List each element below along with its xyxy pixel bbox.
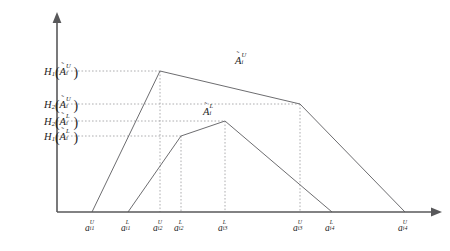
y-label-h1-lower: H1(˜ALi) (44, 129, 78, 145)
horizontal-guides (57, 71, 300, 136)
lower-membership-curve (128, 121, 332, 212)
x-label-ai1u: aUi1 (80, 221, 104, 233)
curve-label-upper: ˜AUi (235, 53, 249, 66)
x-axis-arrow-icon (431, 208, 442, 217)
x-label-ai3l: aLi3 (213, 221, 237, 233)
y-label-h1-upper: H1(˜AUi) (44, 64, 78, 80)
y-axis-arrow-icon (53, 12, 62, 23)
curve-label-lower: ˜ALi (203, 104, 217, 117)
membership-function-figure: H1(˜AUi) H2(˜AUi) H2(˜ALi) H1(˜ALi) aUi1… (0, 0, 450, 251)
x-label-ai4u: aUi4 (393, 221, 417, 233)
vertical-guides (160, 71, 300, 212)
x-label-ai3u: aUi3 (288, 221, 312, 233)
x-label-ai1l: aLi1 (116, 221, 140, 233)
x-label-ai2l: aLi2 (169, 221, 193, 233)
axes (53, 12, 442, 216)
x-label-ai4l: aLi4 (320, 221, 344, 233)
